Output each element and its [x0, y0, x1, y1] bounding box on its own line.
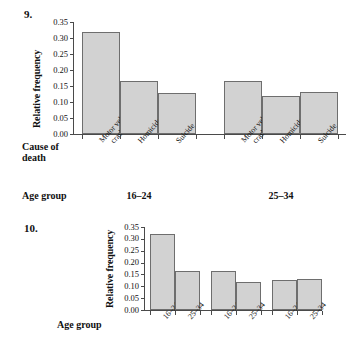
x-axis-title: Age group	[57, 319, 102, 330]
x-tick-mark	[175, 311, 176, 315]
x-tick-mark	[261, 311, 262, 315]
y-tick-mark	[70, 38, 73, 39]
x-tick-mark	[120, 135, 121, 139]
y-axis-line	[73, 22, 74, 134]
y-axis-title: Relative frequency	[104, 230, 115, 308]
x-tick-mark	[158, 135, 159, 139]
group-label: 16–24	[99, 190, 179, 201]
x-tick-mark	[82, 135, 83, 139]
y-tick-mark	[141, 274, 144, 275]
y-tick-mark	[141, 239, 144, 240]
y-tick-mark	[141, 227, 144, 228]
chart-10: 0.000.050.100.150.200.250.300.35Relative…	[0, 215, 357, 351]
x-tick-mark	[300, 135, 301, 139]
x-tick-mark	[272, 311, 273, 315]
x-tick-mark	[236, 311, 237, 315]
y-tick-mark	[70, 118, 73, 119]
x-tick-mark	[150, 311, 151, 315]
y-tick-mark	[141, 298, 144, 299]
x-tick-mark	[297, 311, 298, 315]
y-tick-mark	[70, 134, 73, 135]
x-tick-mark	[196, 135, 197, 139]
y-tick-mark	[141, 263, 144, 264]
y-tick-mark	[70, 70, 73, 71]
y-tick-mark	[141, 251, 144, 252]
age-group-axis-title: Age group	[22, 190, 67, 201]
x-tick-mark	[224, 135, 225, 139]
y-tick-label: 0.00	[37, 129, 68, 139]
y-tick-mark	[70, 86, 73, 87]
x-tick-mark	[338, 135, 339, 139]
y-tick-mark	[141, 286, 144, 287]
chart-9: 0.000.050.100.150.200.250.300.35Relative…	[0, 0, 357, 200]
y-tick-mark	[70, 102, 73, 103]
y-axis-title: Relative frequency	[31, 50, 42, 128]
y-axis-line	[144, 227, 145, 310]
group-label: 25–34	[241, 190, 321, 201]
bar	[150, 234, 175, 310]
x-tick-mark	[211, 311, 212, 315]
y-tick-mark	[70, 22, 73, 23]
x-axis-title: Cause ofdeath	[22, 141, 59, 163]
y-tick-label: 0.35	[37, 17, 68, 27]
x-tick-mark	[200, 311, 201, 315]
x-tick-mark	[322, 311, 323, 315]
y-tick-mark	[141, 310, 144, 311]
y-tick-mark	[70, 54, 73, 55]
x-tick-mark	[262, 135, 263, 139]
y-tick-label: 0.30	[37, 33, 68, 43]
